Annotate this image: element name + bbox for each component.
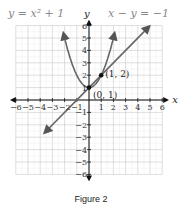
x-tick-label: −2 (59, 103, 71, 112)
equation-label-line: x − y = −1 (108, 7, 169, 20)
figure-caption: Figure 2 (0, 194, 182, 204)
point-label: (1, 2) (105, 69, 129, 79)
y-tick-label: 6 (82, 22, 87, 31)
equation-label-parabola: y = x² + 1 (7, 7, 64, 20)
x-tick-label: 6 (160, 103, 165, 112)
labels: −6−5−4−3−2−1123456654321−1−2−3−4−5−6xy(0… (7, 7, 178, 179)
y-tick-label: 3 (82, 59, 87, 68)
curves (46, 28, 147, 131)
y-tick-label: 2 (82, 71, 87, 80)
x-tick-label: 3 (123, 103, 128, 112)
parabola-curve (89, 36, 114, 88)
intersection-point (99, 73, 104, 78)
graph: −6−5−4−3−2−1123456654321−1−2−3−4−5−6xy(0… (0, 0, 182, 204)
y-tick-label: 5 (82, 34, 87, 43)
x-tick-label: 1 (99, 103, 104, 112)
y-tick-label: −5 (75, 158, 87, 167)
y-tick-label: 1 (82, 84, 87, 93)
y-tick-label: −6 (75, 170, 87, 179)
x-tick-label: −4 (34, 103, 46, 112)
y-tick-label: −2 (75, 121, 87, 130)
intersection-point (87, 85, 92, 90)
y-tick-label: −3 (75, 133, 87, 142)
x-tick-label: 2 (111, 103, 116, 112)
x-tick-label: −6 (10, 103, 22, 112)
x-tick-label: 4 (135, 103, 140, 112)
x-tick-label: 5 (147, 103, 152, 112)
y-tick-label: −4 (75, 146, 87, 155)
y-tick-label: −1 (75, 108, 87, 117)
y-axis-label: y (83, 8, 90, 19)
point-label: (0, 1) (93, 90, 117, 100)
x-axis-label: x (172, 94, 178, 105)
x-tick-label: −5 (22, 103, 34, 112)
x-tick-label: −3 (47, 103, 59, 112)
axes (13, 23, 166, 179)
y-tick-label: 4 (82, 46, 87, 55)
